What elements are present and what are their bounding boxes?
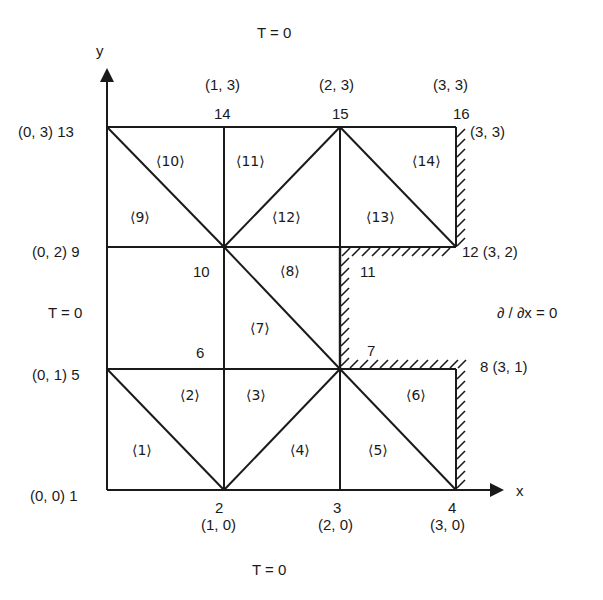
element-14-label: ⟨14⟩: [412, 153, 441, 169]
element-9-label: ⟨9⟩: [130, 209, 150, 225]
fem-mesh-diagram: y x T = 0 T = 0 T = 0 ∂ / ∂x = 0 (0, 0) …: [0, 0, 603, 600]
bc-top-label: T = 0: [257, 24, 291, 41]
node-15-label: 15: [332, 105, 349, 122]
node-12-label: 12 (3, 2): [462, 243, 518, 260]
bc-right-label: ∂ / ∂x = 0: [497, 304, 557, 321]
hatch-notch-left: [341, 258, 349, 366]
node-6-label: 6: [196, 344, 204, 361]
hatch-notch-top: [342, 248, 450, 256]
hatch-right-top: [457, 129, 465, 246]
y-axis-arrow-icon: [100, 68, 114, 82]
x-axis-arrow-icon: [490, 483, 504, 497]
element-7-label: ⟨7⟩: [250, 320, 270, 336]
node-1-label: (0, 0) 1: [30, 487, 78, 504]
bc-bottom-label: T = 0: [252, 561, 286, 578]
element-4-label: ⟨4⟩: [290, 442, 310, 458]
bc-left-label: T = 0: [48, 304, 82, 321]
node-16-coord-right: (3, 3): [470, 123, 505, 140]
node-16-label: 16: [453, 105, 470, 122]
hatch-right-bottom: [457, 371, 465, 488]
node-3-label: 3: [333, 499, 341, 516]
x-axis-label: x: [516, 482, 524, 499]
element-2-label: ⟨2⟩: [180, 387, 200, 403]
element-8-label: ⟨8⟩: [280, 263, 300, 279]
element-6-label: ⟨6⟩: [406, 387, 426, 403]
element-10-label: ⟨10⟩: [156, 153, 185, 169]
element-12-label: ⟨12⟩: [272, 209, 301, 225]
node-labels: (0, 0) 1 2 (1, 0) 3 (2, 0) 4 (3, 0) (0, …: [18, 76, 528, 533]
node-3-coord: (2, 0): [318, 516, 353, 533]
node-2-coord: (1, 0): [201, 516, 236, 533]
node-14-coord: (1, 3): [205, 76, 240, 93]
node-4-label: 4: [448, 499, 456, 516]
x-axis: [107, 483, 504, 497]
element-11-label: ⟨11⟩: [236, 153, 265, 169]
node-15-coord: (2, 3): [319, 76, 354, 93]
node-16-coord: (3, 3): [433, 76, 468, 93]
node-11-label: 11: [360, 263, 376, 280]
element-13-label: ⟨13⟩: [366, 209, 395, 225]
node-2-label: 2: [215, 499, 223, 516]
node-14-label: 14: [214, 105, 231, 122]
element-5-label: ⟨5⟩: [368, 442, 388, 458]
y-axis-label: y: [96, 42, 104, 59]
node-13-label: (0, 3) 13: [18, 123, 74, 140]
node-7-label: 7: [367, 342, 375, 359]
element-3-label: ⟨3⟩: [246, 387, 266, 403]
mesh: [107, 127, 456, 490]
hatch-notch-bottom: [350, 360, 466, 368]
node-8-label: 8 (3, 1): [480, 358, 528, 375]
node-9-label: (0, 2) 9: [32, 243, 80, 260]
element-1-label: ⟨1⟩: [132, 442, 152, 458]
node-4-coord: (3, 0): [430, 516, 465, 533]
node-10-label: 10: [193, 263, 210, 280]
node-5-label: (0, 1) 5: [32, 366, 80, 383]
